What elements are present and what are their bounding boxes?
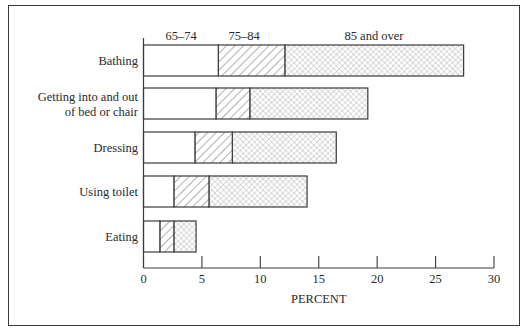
bar-segment (216, 88, 250, 119)
category-label: Getting into and out (38, 90, 139, 104)
bar-segment (144, 45, 219, 76)
legend-label: 85 and over (344, 29, 404, 43)
bar-segment (250, 88, 368, 119)
bar-segment (144, 221, 160, 252)
category-label: Using toilet (79, 185, 138, 199)
bar-segment (144, 132, 195, 163)
x-tick-label: 30 (488, 272, 501, 286)
bar-group (144, 176, 308, 207)
bars (144, 45, 464, 252)
category-label: Dressing (94, 141, 139, 155)
x-tick-label: 20 (371, 272, 384, 286)
bar-segment (285, 45, 464, 76)
legend: 65–7475–8485 and over (165, 29, 404, 43)
bar-segment (144, 176, 174, 207)
category-label: of bed or chair (65, 105, 139, 119)
bar-segment (232, 132, 336, 163)
category-label: Bathing (98, 54, 138, 68)
bar-chart: 65–7475–8485 and over BathingGetting int… (0, 0, 527, 330)
x-axis: 051015202530PERCENT (140, 38, 500, 306)
x-tick-label: 0 (140, 272, 146, 286)
bar-segment (174, 221, 196, 252)
legend-label: 65–74 (165, 29, 197, 43)
bar-segment (174, 176, 209, 207)
bar-group (144, 45, 464, 76)
bar-segment (209, 176, 307, 207)
bar-segment (195, 132, 232, 163)
legend-label: 75–84 (228, 29, 260, 43)
bar-group (144, 88, 368, 119)
bar-segment (144, 88, 216, 119)
x-axis-label: PERCENT (291, 292, 347, 306)
bar-group (144, 132, 337, 163)
x-tick-label: 15 (313, 272, 326, 286)
category-labels: BathingGetting into and outof bed or cha… (38, 54, 139, 244)
bar-segment (160, 221, 174, 252)
x-tick-label: 5 (199, 272, 205, 286)
bar-group (144, 221, 197, 252)
x-tick-label: 10 (254, 272, 267, 286)
category-label: Eating (105, 230, 138, 244)
x-tick-label: 25 (429, 272, 442, 286)
bar-segment (218, 45, 285, 76)
